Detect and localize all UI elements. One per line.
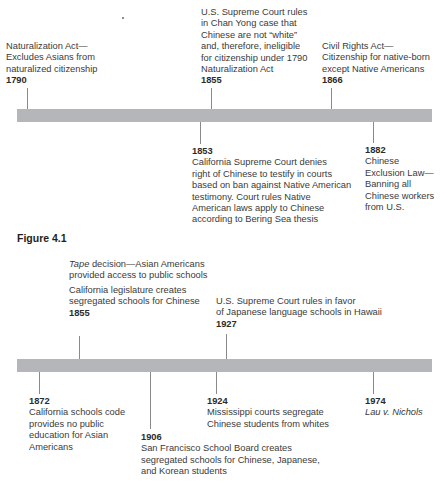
event-year: 1855	[69, 308, 200, 319]
event-desc-line: Chinese students from whites	[207, 419, 329, 430]
case-name: Lau v. Nichols	[365, 407, 423, 418]
event-desc-line: segregated schools for Chinese, Japanese…	[141, 455, 320, 466]
event-1866: Civil Rights Act— Citizenship for native…	[322, 41, 430, 87]
event-desc-line: Citizenship for native-born	[322, 52, 430, 63]
event-desc-line: except Native Americans	[322, 64, 430, 75]
event-desc-line: California schools code	[29, 407, 125, 418]
event-year: 1906	[141, 432, 320, 443]
event-1882: 1882 Chinese Exclusion Law— Banning all …	[365, 145, 434, 213]
event-desc-line: California legislature creates	[69, 285, 200, 296]
event-year: 1924	[207, 396, 329, 407]
timeline-bar	[17, 359, 432, 372]
event-desc-line: Naturalization Act	[201, 64, 307, 75]
event-desc-line: segregated schools for Chinese	[69, 296, 200, 307]
stray-dot	[122, 17, 124, 19]
event-desc-line: U.S. Supreme Court rules in favor	[216, 296, 382, 307]
tick-1853	[200, 122, 201, 144]
event-desc-line: Chinese	[365, 156, 434, 167]
event-desc-line: American laws apply to Chinese	[192, 203, 351, 214]
event-desc-line: in Chan Yong case that	[201, 18, 307, 29]
event-desc-line: Mississippi courts segregate	[207, 407, 329, 418]
event-1855-chan-yong: U.S. Supreme Court rules in Chan Yong ca…	[201, 7, 307, 87]
event-desc-line: testimony. Court rules Native	[192, 192, 351, 203]
event-desc-line: naturalized citizenship	[6, 64, 97, 75]
event-1872: 1872 California schools code provides no…	[29, 396, 125, 453]
timeline-bar	[17, 109, 432, 122]
event-desc-line: Exclusion Law—	[365, 168, 434, 179]
event-1927: U.S. Supreme Court rules in favor of Jap…	[216, 296, 382, 330]
figure-caption: Figure 4.1	[17, 233, 67, 244]
tick-1855	[79, 336, 80, 359]
event-desc-line: from U.S.	[365, 202, 434, 213]
event-1855-segregated-schools: California legislature creates segregate…	[69, 285, 200, 319]
event-1974: 1974 Lau v. Nichols	[365, 396, 423, 419]
event-desc-line: San Francisco School Board creates	[141, 443, 320, 454]
event-desc-line: for citizenship under 1790	[201, 53, 307, 64]
case-name: Tape	[69, 259, 89, 269]
tick-1790	[27, 88, 28, 110]
event-desc-line: based on ban against Native American	[192, 180, 351, 191]
event-1924: 1924 Mississippi courts segregate Chines…	[207, 396, 329, 430]
event-1853: 1853 California Supreme Court denies rig…	[192, 146, 351, 226]
event-year: 1866	[322, 75, 430, 86]
event-desc-line: Americans	[29, 442, 125, 453]
tick-1882	[373, 122, 374, 143]
event-desc-line: Naturalization Act—	[6, 41, 97, 52]
event-desc-line: education for Asian	[29, 430, 125, 441]
tick-1855	[211, 88, 212, 110]
event-desc-line: according to Bering Sea thesis	[192, 214, 351, 225]
tick-1974	[373, 372, 374, 394]
event-1790: Naturalization Act— Excludes Asians from…	[6, 41, 97, 87]
event-desc-line: and Korean students	[141, 466, 320, 477]
event-desc-line: Chinese workers	[365, 191, 434, 202]
event-year: 1872	[29, 396, 125, 407]
event-desc-line: provided access to public schools	[69, 270, 208, 281]
tick-1866	[331, 88, 332, 110]
event-desc-line: and, therefore, ineligible	[201, 41, 307, 52]
event-desc-line: Tape decision—Asian Americans	[69, 259, 208, 270]
event-desc-line: Excludes Asians from	[6, 52, 97, 63]
tick-1927	[226, 334, 227, 359]
event-desc-line: Chinese are not “white”	[201, 30, 307, 41]
event-desc-line: California Supreme Court denies	[192, 157, 351, 168]
event-desc-line: of Japanese language schools in Hawaii	[216, 307, 382, 318]
event-1906: 1906 San Francisco School Board creates …	[141, 432, 320, 478]
tick-1906	[150, 372, 151, 429]
event-desc-line: right of Chinese to testify in courts	[192, 169, 351, 180]
event-desc-line: Civil Rights Act—	[322, 41, 430, 52]
event-year: 1882	[365, 145, 434, 156]
event-tape-decision: Tape decision—Asian Americans provided a…	[69, 259, 208, 282]
tick-1872	[39, 372, 40, 394]
event-year: 1790	[6, 75, 97, 86]
event-year: 1855	[201, 75, 307, 86]
event-year: 1853	[192, 146, 351, 157]
event-desc-line: U.S. Supreme Court rules	[201, 7, 307, 18]
tick-1924	[216, 372, 217, 394]
event-desc-line: provides no public	[29, 419, 125, 430]
event-year: 1974	[365, 396, 423, 407]
event-desc-line: Banning all	[365, 179, 434, 190]
event-year: 1927	[216, 319, 382, 330]
